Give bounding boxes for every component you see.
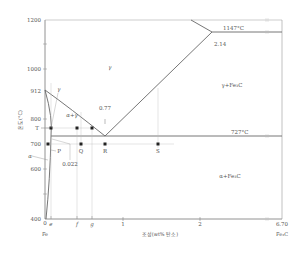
x-tick-2: 2 xyxy=(198,221,202,227)
x-tick-6.70: 6.70 xyxy=(276,221,289,227)
x-axis-label: 조성(wt% 탄소) xyxy=(142,231,178,237)
x-tick-e: e xyxy=(49,221,53,227)
region-alpha-gamma: α+γ xyxy=(66,112,78,119)
region-gamma-fe3c: γ+Fe₃C xyxy=(221,82,242,89)
region-alpha-fe3c: α+Fe₃C xyxy=(219,173,241,179)
right-ticks xyxy=(266,18,268,221)
point-S: S xyxy=(156,148,160,154)
guide-lines xyxy=(45,83,174,219)
x-tick-1: 1 xyxy=(121,221,125,227)
eutectoid-comp-label: 0.77 xyxy=(99,105,112,111)
y-tick-600: 600 xyxy=(31,166,42,172)
alpha-solvus xyxy=(46,136,51,219)
x-tick-0: 0 xyxy=(43,220,47,226)
y-tick-1200: 1200 xyxy=(27,17,41,23)
y-axis-label: 온도(°C) xyxy=(17,110,23,130)
region-alpha: α xyxy=(28,153,32,159)
liquidus-line xyxy=(191,20,212,32)
gamma-leader xyxy=(51,93,58,128)
x-tick-arrows xyxy=(51,216,200,221)
y-tick-400: 400 xyxy=(31,216,42,222)
y-tick-800: 800 xyxy=(31,116,42,122)
point-P: P xyxy=(57,148,61,154)
region-gamma-arrow: γ xyxy=(57,86,61,93)
eutectic-temp-label: 1147°C xyxy=(223,25,244,31)
y-tick-T: T xyxy=(35,125,39,131)
point-R: R xyxy=(103,148,108,154)
alpha-max-leader xyxy=(52,139,70,160)
y-tick-1000: 1000 xyxy=(27,66,41,72)
y-tick-912: 912 xyxy=(31,88,42,94)
alpha-leader xyxy=(32,156,48,160)
y-tick-700: 700 xyxy=(31,141,42,147)
acm-line xyxy=(105,32,212,136)
x-right-end: Fe₃C xyxy=(276,231,288,237)
phase-diagram: 1200 1000 912 800 T 700 600 400 온도(°C) 0… xyxy=(0,0,305,256)
eutectic-comp-label: 2.14 xyxy=(214,41,227,47)
p-leader xyxy=(51,150,56,151)
x-tick-g: g xyxy=(90,221,94,228)
x-tick-f: f xyxy=(75,221,79,228)
region-gamma: γ xyxy=(108,64,112,71)
x-left-end: Fe xyxy=(42,231,48,237)
point-Q: Q xyxy=(79,148,84,154)
eutectoid-temp-label: 727°C xyxy=(231,129,248,135)
alpha-max-label: 0.022 xyxy=(62,161,78,167)
